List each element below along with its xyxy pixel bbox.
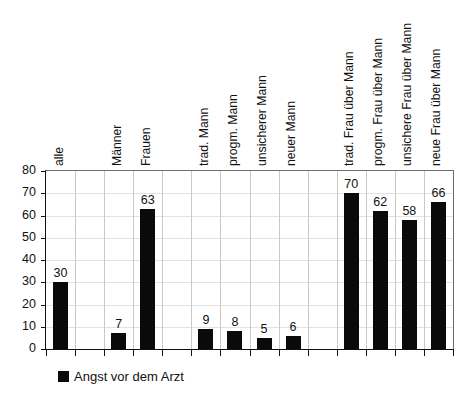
bar-value-label: 30: [46, 267, 75, 279]
legend-label: Angst vor dem Arzt: [74, 370, 184, 383]
bar: [53, 282, 68, 349]
y-tick-label-0: 0: [2, 342, 36, 354]
x-tick-mark: [220, 349, 221, 356]
bar: [227, 331, 242, 349]
column-separator: [395, 171, 396, 349]
x-tick-mark: [104, 349, 105, 356]
x-category-label: progm. Frau über Mann: [372, 38, 384, 166]
plot-area: 30763985670625866: [45, 170, 454, 350]
bar: [431, 202, 446, 349]
bar: [344, 193, 359, 349]
bar-chart: — 01020304050607080 30763985670625866 al…: [0, 0, 469, 397]
bar: [198, 329, 213, 349]
x-category-label: Männer: [111, 125, 123, 166]
x-tick-mark: [424, 349, 425, 356]
bar-value-label: 70: [337, 178, 366, 190]
x-tick-mark: [366, 349, 367, 356]
x-tick-mark: [250, 349, 251, 356]
bar-value-label: 66: [424, 187, 453, 199]
x-category-label: unsicherer Mann: [256, 75, 268, 166]
bar-value-label: 63: [133, 194, 162, 206]
column-separator: [308, 171, 309, 349]
y-tick-label-50: 50: [2, 231, 36, 243]
x-axis-category-labels: alleMännerFrauentrad. Mannprogm. Mannuns…: [45, 0, 452, 170]
bar-value-label: 9: [191, 314, 220, 326]
column-separator: [75, 171, 76, 349]
x-category-label: trad. Frau über Mann: [343, 52, 355, 166]
chart-legend: Angst vor dem Arzt: [58, 370, 184, 383]
legend-swatch-icon: [58, 371, 69, 382]
bar-value-label: 6: [279, 321, 308, 333]
bar: [286, 336, 301, 349]
column-separator: [162, 171, 163, 349]
y-axis-tick-labels: 01020304050607080: [0, 164, 36, 354]
x-tick-mark: [279, 349, 280, 356]
x-tick-mark: [133, 349, 134, 356]
y-tick-mark: [41, 171, 46, 172]
bar: [373, 211, 388, 349]
bar: [402, 220, 417, 349]
x-tick-mark: [337, 349, 338, 356]
x-category-label: neuer Mann: [285, 101, 297, 166]
x-tick-mark: [453, 349, 454, 356]
x-tick-mark: [75, 349, 76, 356]
x-category-label: neue Frau über Mann: [430, 49, 442, 166]
x-category-label: trad. Mann: [198, 108, 210, 166]
x-tick-mark: [191, 349, 192, 356]
y-tick-label-40: 40: [2, 253, 36, 265]
x-tick-mark: [308, 349, 309, 356]
column-separator: [337, 171, 338, 349]
bar-value-label: 58: [395, 205, 424, 217]
y-tick-label-70: 70: [2, 186, 36, 198]
bar-value-label: 62: [366, 196, 395, 208]
y-tick-label-30: 30: [2, 275, 36, 287]
x-tick-mark: [395, 349, 396, 356]
y-tick-label-80: 80: [2, 164, 36, 176]
y-tick-label-10: 10: [2, 320, 36, 332]
x-category-label: unsichere Frau über Mann: [401, 23, 413, 166]
y-tick-label-20: 20: [2, 298, 36, 310]
bar: [257, 338, 272, 349]
bar: [111, 333, 126, 349]
x-category-label: progm. Mann: [227, 94, 239, 166]
x-category-label: Frauen: [140, 127, 152, 166]
x-tick-mark: [46, 349, 47, 356]
bar-value-label: 7: [104, 318, 133, 330]
bar: [140, 209, 155, 349]
x-category-label: alle: [53, 147, 65, 166]
x-tick-mark: [162, 349, 163, 356]
bar-value-label: 8: [220, 316, 249, 328]
bar-value-label: 5: [250, 323, 279, 335]
y-tick-label-60: 60: [2, 209, 36, 221]
